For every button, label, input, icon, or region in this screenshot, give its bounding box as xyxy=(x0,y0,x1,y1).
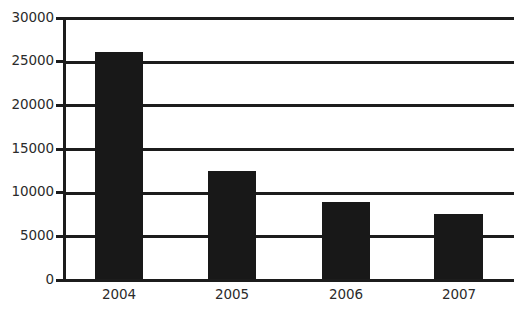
plot-area xyxy=(65,17,514,279)
x-axis-tick-label-2007: 2007 xyxy=(425,288,493,302)
gridline-0-baseline xyxy=(65,279,514,282)
bar-2005 xyxy=(208,171,256,279)
y-axis-tick-label: 0 xyxy=(0,273,54,287)
y-axis-tick-label: 25000 xyxy=(0,54,54,68)
y-axis-labels: 30000 25000 20000 15000 10000 5000 0 xyxy=(0,0,54,314)
bar-2006 xyxy=(322,202,370,279)
bar-2004 xyxy=(95,52,143,279)
y-axis-tick-label: 15000 xyxy=(0,142,54,156)
x-axis-tick-label-2005: 2005 xyxy=(198,288,266,302)
gridline-30000 xyxy=(65,17,514,20)
y-axis-tick-label: 20000 xyxy=(0,98,54,112)
y-axis-tick-label: 30000 xyxy=(0,11,54,25)
x-axis-tick-label-2006: 2006 xyxy=(312,288,380,302)
bar-2007 xyxy=(434,214,483,279)
bar-chart: 30000 25000 20000 15000 10000 5000 0 200… xyxy=(0,0,522,314)
y-axis-tick-label: 5000 xyxy=(0,229,54,243)
x-axis-tick-label-2004: 2004 xyxy=(85,288,153,302)
x-axis-labels: 2004 2005 2006 2007 xyxy=(65,288,514,310)
y-axis-tick-label: 10000 xyxy=(0,185,54,199)
